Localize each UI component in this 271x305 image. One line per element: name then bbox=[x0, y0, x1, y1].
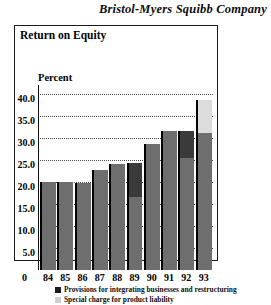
x-axis-tick-label: 87 bbox=[92, 272, 108, 283]
legend-item: Provisions for integrating businesses an… bbox=[55, 285, 270, 294]
bar bbox=[161, 131, 177, 270]
bar-column: 93 bbox=[196, 85, 212, 270]
x-axis-tick-label: 91 bbox=[161, 272, 177, 283]
x-axis-tick-label: 88 bbox=[109, 272, 125, 283]
bar bbox=[178, 131, 194, 270]
bar-segment-provisions bbox=[129, 163, 143, 197]
y-axis-zero-label: 0 bbox=[22, 272, 27, 283]
y-axis-tick-label: 10.0 bbox=[18, 225, 36, 236]
legend-item: Special charge for product liability bbox=[55, 295, 270, 304]
bar bbox=[144, 144, 160, 270]
bar-column: 87 bbox=[92, 85, 108, 270]
bar-column: 88 bbox=[109, 85, 125, 270]
bar-column: 85 bbox=[57, 85, 73, 270]
bar-column: 86 bbox=[75, 85, 91, 270]
y-axis-tick-label: 30.0 bbox=[18, 137, 36, 148]
bar bbox=[40, 182, 56, 270]
legend-swatch-icon bbox=[55, 287, 61, 293]
legend-swatch-icon bbox=[55, 297, 61, 303]
bar bbox=[57, 182, 73, 270]
figure-title: Return on Equity bbox=[20, 29, 106, 41]
y-axis-tick-label: 40.0 bbox=[18, 93, 36, 104]
bar-column: 84 bbox=[40, 85, 56, 270]
x-axis-tick-label: 90 bbox=[144, 272, 160, 283]
bar-column: 91 bbox=[161, 85, 177, 270]
bar bbox=[196, 100, 212, 270]
x-axis-tick-label: 89 bbox=[127, 272, 143, 283]
x-axis-tick-label: 85 bbox=[57, 272, 73, 283]
y-axis-tick-label: 25.0 bbox=[18, 159, 36, 170]
bar bbox=[109, 164, 125, 270]
bar bbox=[127, 163, 143, 270]
y-axis-tick-label: 15.0 bbox=[18, 203, 36, 214]
bar-column: 90 bbox=[144, 85, 160, 270]
bar bbox=[92, 170, 108, 270]
legend-label: Provisions for integrating businesses an… bbox=[64, 285, 237, 294]
plot-area: 40.035.030.025.020.015.010.05.0 84858687… bbox=[38, 85, 213, 270]
y-axis-label: Percent bbox=[38, 72, 72, 83]
x-axis-tick-label: 86 bbox=[75, 272, 91, 283]
chart-legend: Provisions for integrating businesses an… bbox=[55, 285, 270, 305]
y-axis-tick-label: 20.0 bbox=[18, 181, 36, 192]
bars-group: 84858687888990919293 bbox=[40, 85, 213, 270]
y-axis-tick-label: 5.0 bbox=[23, 247, 36, 258]
company-name-header: Bristol-Myers Squibb Company bbox=[99, 2, 267, 17]
bar-segment-special-charge bbox=[198, 100, 212, 133]
x-axis-tick-label: 84 bbox=[40, 272, 56, 283]
legend-label: Special charge for product liability bbox=[64, 295, 174, 304]
bar-column: 89 bbox=[127, 85, 143, 270]
y-axis-tick-label: 35.0 bbox=[18, 115, 36, 126]
bar-segment-provisions bbox=[180, 131, 194, 157]
bar bbox=[75, 183, 91, 270]
x-axis-tick-label: 92 bbox=[178, 272, 194, 283]
x-axis-tick-label: 93 bbox=[196, 272, 212, 283]
bar-column: 92 bbox=[178, 85, 194, 270]
